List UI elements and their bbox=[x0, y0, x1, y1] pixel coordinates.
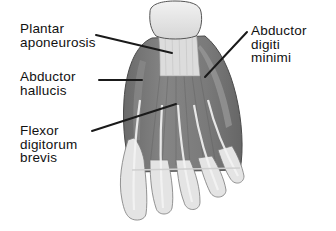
label-line: brevis bbox=[20, 151, 77, 165]
label-flexor-digitorum-brevis: Flexor digitorum brevis bbox=[20, 124, 77, 165]
label-line: Plantar bbox=[20, 22, 96, 36]
foot-anatomy-diagram: Plantar aponeurosis Abductor hallucis Fl… bbox=[0, 0, 336, 231]
label-line: hallucis bbox=[20, 84, 76, 98]
label-line: aponeurosis bbox=[20, 36, 96, 50]
heel-bone bbox=[150, 1, 202, 39]
label-plantar-aponeurosis: Plantar aponeurosis bbox=[20, 22, 96, 49]
label-line: digiti bbox=[251, 38, 307, 52]
label-line: minimi bbox=[251, 51, 307, 65]
label-line: Abductor bbox=[251, 24, 307, 38]
label-abductor-hallucis: Abductor hallucis bbox=[20, 70, 76, 97]
label-line: Abductor bbox=[20, 70, 76, 84]
label-line: Flexor bbox=[20, 124, 77, 138]
label-abductor-digiti-minimi: Abductor digiti minimi bbox=[251, 24, 307, 65]
label-line: digitorum bbox=[20, 138, 77, 152]
